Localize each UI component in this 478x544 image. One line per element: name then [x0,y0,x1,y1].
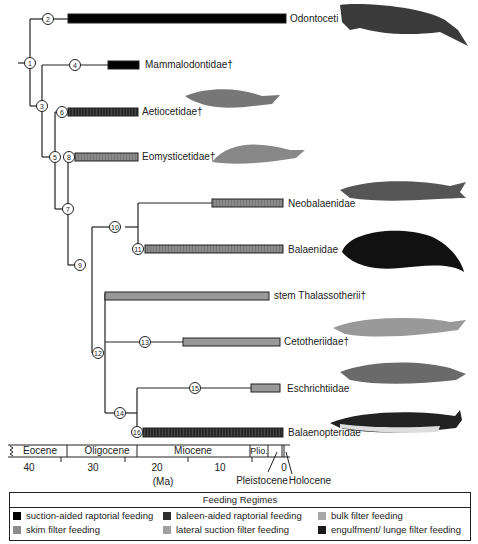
swatch-icon [318,512,326,520]
svg-text:1: 1 [28,60,32,67]
timescale: Eocene Oligocene Miocene Plio. 40 30 20 … [8,445,332,487]
legend-item: engulfment/ lunge filter feeding [318,524,468,535]
svg-text:6: 6 [60,109,64,116]
bar-mammalodontidae [108,61,139,69]
svg-text:15: 15 [191,385,199,392]
svg-text:10: 10 [111,224,119,231]
svg-text:(Ma): (Ma) [153,476,174,487]
grey-sided-whale-icon [333,318,466,336]
taxon-labels: Odontoceti Mammalodontidae† Aetiocetidae… [142,13,366,438]
tree-branches [18,19,251,432]
swatch-icon [13,512,21,520]
svg-text:11: 11 [134,246,141,253]
svg-text:12: 12 [94,350,102,357]
svg-text:20: 20 [151,462,163,473]
bar-balaenidae [145,245,283,253]
bar-balaenopteridae [143,428,283,437]
swatch-icon [318,526,326,534]
svg-text:Holocene: Holocene [289,475,332,486]
bar-aetiocetidae [68,108,138,116]
svg-text:5: 5 [53,154,57,161]
svg-text:16: 16 [133,429,141,436]
svg-text:Eschrichtiidae: Eschrichtiidae [287,383,350,394]
legend-title: Feeding Regimes [10,493,470,508]
svg-text:Pleistocene: Pleistocene [236,475,288,486]
swatch-icon [13,526,21,534]
svg-text:2: 2 [46,16,50,23]
svg-text:Eocene: Eocene [23,445,57,456]
svg-text:Eomysticetidae†: Eomysticetidae† [142,151,215,162]
bar-odontoceti [68,14,286,23]
svg-text:Mammalodontidae†: Mammalodontidae† [145,59,233,70]
svg-text:14: 14 [116,410,124,417]
svg-text:Plio.: Plio. [250,446,268,456]
svg-text:40: 40 [23,462,35,473]
bar-cetotheriidae [183,338,280,346]
legend-item: skim filter feeding [13,524,163,535]
svg-text:8: 8 [67,154,71,161]
eomysticetid-whale-icon [212,144,305,163]
svg-text:4: 4 [73,62,77,69]
svg-text:0: 0 [281,462,287,473]
right-whale-icon [342,231,464,272]
svg-text:9: 9 [78,262,82,269]
svg-text:30: 30 [87,462,99,473]
legend-item: bulk filter feeding [318,510,468,521]
svg-text:13: 13 [141,339,149,346]
legend-item: baleen-aided raptorial feeding [163,510,318,521]
sperm-whale-icon [340,4,468,46]
bar-eschrichtiidae [251,384,280,392]
svg-text:10: 10 [214,462,226,473]
minke-whale-icon [340,181,466,200]
swatch-icon [163,526,171,534]
svg-text:Miocene: Miocene [174,445,212,456]
svg-text:Odontoceti: Odontoceti [290,13,338,24]
legend-item: suction-aided raptorial feeding [13,510,163,521]
range-bars [68,14,286,437]
svg-text:Oligocene: Oligocene [84,445,129,456]
svg-text:Balaenidae: Balaenidae [288,244,338,255]
cladogram: 1 2 3 4 5 6 7 8 9 10 11 12 13 14 15 16 O… [0,0,478,544]
svg-text:3: 3 [40,103,44,110]
legend-item: lateral suction filter feeding [163,524,318,535]
bar-eomysticetidae [75,153,138,161]
tree-nodes: 1 2 3 4 5 6 7 8 9 10 11 12 13 14 15 16 [25,14,201,438]
svg-text:Cetotheriidae†: Cetotheriidae† [284,336,349,347]
svg-text:stem Thalassotherii†: stem Thalassotherii† [274,290,366,301]
swatch-icon [163,512,171,520]
aetiocetid-whale-icon [185,89,280,107]
svg-text:Neobalaenidae: Neobalaenidae [288,198,356,209]
svg-text:Aetiocetidae†: Aetiocetidae† [142,106,203,117]
bar-stem-thalassotherii [105,292,269,300]
bar-neobalaenidae [212,199,283,207]
gray-whale-icon [340,362,466,383]
feeding-regimes-legend: Feeding Regimes suction-aided raptorial … [9,492,471,541]
svg-text:7: 7 [66,206,70,213]
